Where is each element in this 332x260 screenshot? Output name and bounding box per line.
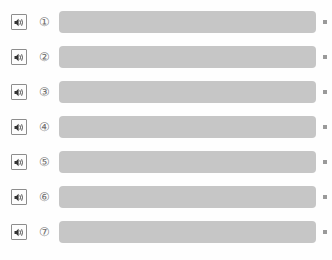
speaker-icon[interactable] [11, 14, 27, 30]
list-item: ① [0, 11, 332, 33]
list-item-index: ⑤ [33, 156, 55, 168]
speaker-glyph-icon [14, 123, 25, 132]
row-marker-icon [323, 55, 327, 59]
content-placeholder-bar[interactable] [59, 221, 316, 243]
list-item-index: ② [33, 51, 55, 63]
speaker-glyph-icon [14, 228, 25, 237]
row-marker-icon [323, 20, 327, 24]
speaker-glyph-icon [14, 193, 25, 202]
speaker-icon[interactable] [11, 84, 27, 100]
row-marker-icon [323, 195, 327, 199]
audio-question-list: ① ② ③ [0, 0, 332, 260]
list-item: ⑤ [0, 151, 332, 173]
list-item: ④ [0, 116, 332, 138]
content-placeholder-bar[interactable] [59, 116, 316, 138]
speaker-icon[interactable] [11, 224, 27, 240]
list-item-index: ① [33, 16, 55, 28]
row-marker-icon [323, 160, 327, 164]
content-placeholder-bar[interactable] [59, 151, 316, 173]
list-item: ⑥ [0, 186, 332, 208]
list-item: ③ [0, 81, 332, 103]
list-item: ⑦ [0, 221, 332, 243]
speaker-icon[interactable] [11, 49, 27, 65]
row-marker-icon [323, 125, 327, 129]
speaker-glyph-icon [14, 158, 25, 167]
content-placeholder-bar[interactable] [59, 11, 316, 33]
speaker-glyph-icon [14, 88, 25, 97]
list-item: ② [0, 46, 332, 68]
list-item-index: ③ [33, 86, 55, 98]
list-item-index: ⑦ [33, 226, 55, 238]
speaker-icon[interactable] [11, 119, 27, 135]
list-item-index: ⑥ [33, 191, 55, 203]
speaker-icon[interactable] [11, 189, 27, 205]
speaker-glyph-icon [14, 18, 25, 27]
row-marker-icon [323, 230, 327, 234]
content-placeholder-bar[interactable] [59, 81, 316, 103]
content-placeholder-bar[interactable] [59, 186, 316, 208]
list-item-index: ④ [33, 121, 55, 133]
content-placeholder-bar[interactable] [59, 46, 316, 68]
row-marker-icon [323, 90, 327, 94]
speaker-icon[interactable] [11, 154, 27, 170]
speaker-glyph-icon [14, 53, 25, 62]
